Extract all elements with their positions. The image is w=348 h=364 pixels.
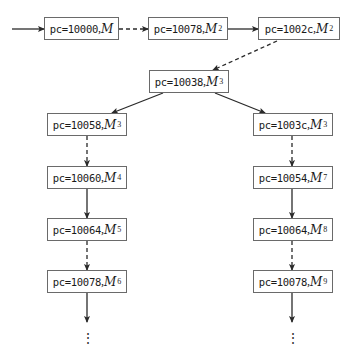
memory-symbol: M [101, 22, 113, 36]
continuation-ellipsis: ⋮ [81, 330, 93, 346]
memory-superscript: 9 [323, 277, 327, 286]
state-node-n9: pc=10064,M5 [47, 218, 127, 241]
state-node-n6: pc=1003c,M3 [253, 113, 333, 136]
pc-label: pc=10078 [259, 276, 307, 288]
pc-label: pc=10058 [53, 119, 101, 131]
state-node-n2: pc=10078,M2 [148, 17, 228, 40]
state-node-n10: pc=10064,M8 [253, 218, 333, 241]
state-node-n5: pc=10058,M3 [47, 113, 127, 136]
memory-symbol: M [310, 171, 322, 185]
memory-superscript: 4 [117, 173, 121, 182]
pc-label: pc=1003c [259, 119, 307, 131]
solid-edge-n4-n6 [215, 93, 265, 113]
memory-symbol: M [104, 171, 116, 185]
state-node-n1: pc=10000,M [44, 17, 119, 40]
pc-label: pc=10060 [53, 172, 101, 184]
dashed-edge-n3-n4 [213, 41, 277, 70]
pc-label: pc=10064 [259, 224, 307, 236]
memory-superscript: 2 [218, 24, 222, 33]
memory-superscript: 3 [323, 120, 327, 129]
memory-superscript: 6 [117, 277, 121, 286]
state-node-n7: pc=10060,M4 [47, 166, 127, 189]
state-transition-diagram: pc=10000,Mpc=10078,M2pc=1002c,M2pc=10038… [0, 0, 348, 364]
state-node-n11: pc=10078,M6 [47, 270, 127, 293]
memory-superscript: 3 [219, 77, 223, 86]
state-node-n12: pc=10078,M9 [253, 270, 333, 293]
pc-label: pc=10000 [50, 23, 98, 35]
state-node-n4: pc=10038,M3 [149, 70, 229, 93]
memory-superscript: 3 [117, 120, 121, 129]
memory-symbol: M [104, 118, 116, 132]
memory-symbol: M [104, 275, 116, 289]
memory-symbol: M [310, 223, 322, 237]
memory-superscript: 5 [117, 225, 121, 234]
state-node-n8: pc=10054,M7 [253, 166, 333, 189]
memory-symbol: M [316, 22, 328, 36]
pc-label: pc=10078 [53, 276, 101, 288]
pc-label: pc=10078 [154, 23, 202, 35]
state-node-n3: pc=1002c,M2 [258, 17, 340, 40]
memory-symbol: M [104, 223, 116, 237]
memory-symbol: M [310, 275, 322, 289]
pc-label: pc=10038 [155, 76, 203, 88]
pc-label: pc=1002c [265, 23, 313, 35]
memory-symbol: M [205, 22, 217, 36]
memory-symbol: M [310, 118, 322, 132]
solid-edge-n4-n5 [112, 93, 163, 113]
memory-superscript: 8 [323, 225, 327, 234]
continuation-ellipsis: ⋮ [286, 330, 298, 346]
pc-label: pc=10064 [53, 224, 101, 236]
memory-symbol: M [206, 75, 218, 89]
memory-superscript: 7 [323, 173, 327, 182]
memory-superscript: 2 [329, 24, 333, 33]
pc-label: pc=10054 [259, 172, 307, 184]
